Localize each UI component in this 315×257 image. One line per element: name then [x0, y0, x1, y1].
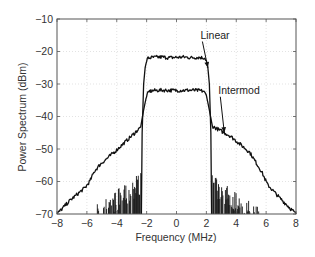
- y-tick-label: −70: [35, 208, 53, 220]
- x-axis-label: Frequency (MHz): [135, 231, 216, 243]
- x-tick-label: 2: [203, 217, 209, 229]
- x-tick-label: 0: [174, 217, 180, 229]
- annotation-intermod: Intermod: [218, 84, 260, 96]
- y-axis-label: Power Spectrum (dBm): [16, 62, 28, 171]
- x-tick-label: −2: [141, 217, 153, 229]
- linear-noise-floor: [97, 173, 258, 214]
- x-tick-label: 8: [293, 217, 299, 229]
- y-tick-label: −40: [35, 110, 53, 122]
- y-tick-label: −30: [35, 78, 53, 90]
- annotation-linear: Linear: [200, 29, 230, 41]
- x-tick-label: 4: [233, 217, 239, 229]
- x-tick-label: −4: [111, 217, 123, 229]
- spectrum-chart: −8−6−4−202468−10−20−30−40−50−60−70 Linea…: [0, 0, 315, 257]
- x-tick-label: −6: [81, 217, 93, 229]
- y-tick-label: −50: [35, 143, 53, 155]
- y-tick-label: −60: [35, 175, 53, 187]
- grid-lines: [57, 19, 296, 214]
- y-tick-label: −20: [35, 45, 53, 57]
- x-tick-label: 6: [263, 217, 269, 229]
- y-tick-label: −10: [35, 13, 53, 25]
